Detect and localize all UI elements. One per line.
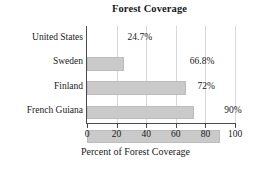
- bar-value-label: 66.8%: [190, 54, 215, 68]
- category-label: United States: [0, 30, 83, 44]
- x-tick-label-60: 60: [163, 129, 189, 139]
- bar-value-label: 24.7%: [128, 30, 153, 44]
- bar: [87, 81, 186, 95]
- x-tick-mark-0: [87, 124, 88, 128]
- x-tick-label-100: 100: [222, 129, 248, 139]
- bar-value-label: 72%: [198, 79, 215, 93]
- plot-area: [87, 26, 235, 123]
- x-tick-mark-60: [176, 124, 177, 128]
- x-tick-label-80: 80: [192, 129, 218, 139]
- x-tick-mark-100: [235, 124, 236, 128]
- bar: [87, 106, 194, 120]
- category-label: Sweden: [0, 54, 83, 68]
- category-label: French Guiana: [0, 103, 83, 117]
- bar: [87, 57, 124, 71]
- bar-value-label: 90%: [224, 103, 241, 117]
- x-tick-label-20: 20: [104, 129, 130, 139]
- x-tick-mark-20: [117, 124, 118, 128]
- bar-chart: Forest Coverage Percent of Forest Covera…: [0, 0, 255, 175]
- x-axis-line: [86, 123, 236, 124]
- x-tick-label-0: 0: [74, 129, 100, 139]
- bar-row: [87, 102, 235, 124]
- x-axis-title: Percent of Forest Coverage: [8, 146, 255, 157]
- x-tick-mark-80: [205, 124, 206, 128]
- x-tick-label-40: 40: [133, 129, 159, 139]
- chart-title: Forest Coverage: [22, 3, 255, 14]
- x-tick-mark-40: [146, 124, 147, 128]
- category-label: Finland: [0, 79, 83, 93]
